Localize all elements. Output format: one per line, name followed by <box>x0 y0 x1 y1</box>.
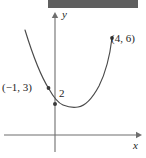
axis-label-y: y <box>62 9 67 20</box>
graph-canvas <box>0 0 146 158</box>
label-point-left: (−1, 3) <box>2 82 32 93</box>
parabola-curve <box>25 30 112 107</box>
point-marker-y-intercept <box>53 102 57 106</box>
label-y-intercept: 2 <box>59 88 65 99</box>
axis-label-x: x <box>133 140 138 151</box>
y-axis-arrowhead <box>52 12 58 18</box>
point-marker-left <box>47 86 51 90</box>
figure-container: (−1, 3) (4, 6) 2 y x <box>0 0 146 158</box>
x-axis-arrowhead <box>136 132 142 138</box>
label-point-right: (4, 6) <box>111 33 135 44</box>
